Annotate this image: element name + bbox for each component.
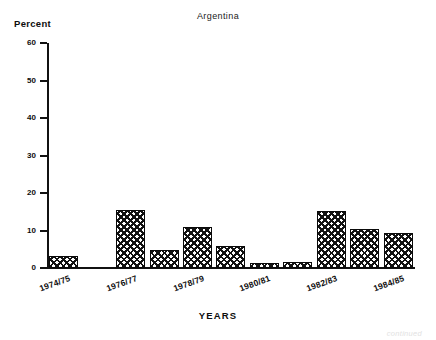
- bar-chart: Argentina Percent 0102030405060 1974/751…: [0, 0, 436, 340]
- y-tick-label: 20: [14, 188, 36, 197]
- plot-area: [47, 43, 415, 268]
- bar: [216, 246, 245, 268]
- y-tick-mark: [40, 80, 47, 82]
- y-tick-label-wrap: 50: [12, 76, 36, 86]
- y-tick-mark: [40, 117, 47, 119]
- y-axis-label: Percent: [14, 18, 51, 29]
- y-tick-mark: [40, 155, 47, 157]
- y-tick-label: 0: [14, 263, 36, 272]
- y-tick-label: 40: [14, 113, 36, 122]
- chart-title: Argentina: [0, 11, 436, 21]
- x-tick-label: 1984/85: [372, 273, 406, 293]
- y-tick-mark: [40, 42, 47, 44]
- y-tick-mark: [40, 267, 47, 269]
- x-tick-label: 1982/83: [305, 273, 339, 293]
- footer-note: continued: [387, 329, 422, 338]
- bar: [116, 210, 145, 269]
- y-tick-label: 60: [14, 38, 36, 47]
- bar: [150, 250, 179, 268]
- y-tick-label: 50: [14, 76, 36, 85]
- y-tick-label-wrap: 20: [12, 188, 36, 198]
- bar: [250, 263, 279, 268]
- x-tick-label: 1980/81: [238, 273, 272, 293]
- y-tick-mark: [40, 192, 47, 194]
- y-tick-label-wrap: 0: [12, 263, 36, 273]
- bar: [350, 229, 379, 268]
- bar: [384, 233, 413, 268]
- bar: [49, 256, 78, 268]
- y-tick-label-wrap: 40: [12, 113, 36, 123]
- y-tick-label-wrap: 10: [12, 226, 36, 236]
- y-tick-label: 30: [14, 151, 36, 160]
- x-axis-label: YEARS: [0, 310, 436, 321]
- x-tick-label: 1978/79: [172, 273, 206, 293]
- y-tick-label: 10: [14, 226, 36, 235]
- x-tick-label: 1974/75: [38, 273, 72, 293]
- bar: [317, 211, 346, 268]
- x-tick-label: 1976/77: [105, 273, 139, 293]
- bar: [283, 262, 312, 268]
- y-tick-mark: [40, 230, 47, 232]
- y-tick-label-wrap: 30: [12, 151, 36, 161]
- bar: [183, 227, 212, 268]
- y-tick-label-wrap: 60: [12, 38, 36, 48]
